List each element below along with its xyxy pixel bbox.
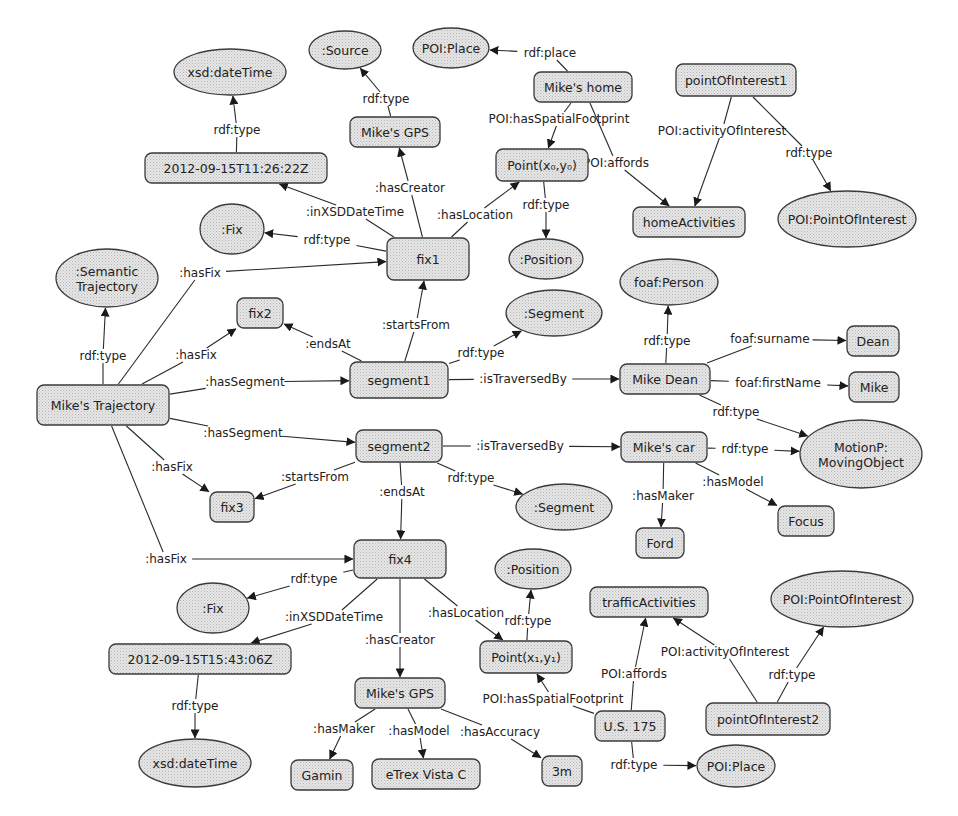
node-motionp[interactable]: MotionP:MovingObject	[800, 420, 922, 488]
node-source[interactable]: :Source	[309, 31, 381, 69]
node-label: POI:Place	[707, 759, 766, 774]
node-label: fix3	[220, 500, 243, 515]
edge-arrow-icon	[103, 308, 105, 349]
edge-mikes_gps1-source: rdf:type	[360, 68, 409, 116]
edge-arrow-icon	[399, 148, 408, 181]
node-mikes_home[interactable]: Mike's home	[534, 72, 632, 102]
node-position2[interactable]: :Position	[495, 549, 571, 589]
node-poi_class1[interactable]: POI:PointOfInterest	[778, 191, 916, 247]
edge-label: POI:affords	[601, 667, 667, 681]
node-label: POI:Place	[422, 41, 481, 56]
node-ford[interactable]: Ford	[636, 528, 684, 558]
edge-label: rdf:type	[722, 442, 769, 456]
edge-line-start	[405, 332, 414, 361]
node-point0[interactable]: Point(x₀,y₀)	[496, 149, 588, 181]
edge-line-start	[334, 462, 355, 470]
node-label: :SemanticTrajectory	[75, 263, 138, 293]
edge-line-start	[707, 346, 752, 363]
node-traffic[interactable]: trafficActivities	[590, 587, 708, 617]
node-poiplace2[interactable]: POI:Place	[697, 745, 775, 787]
edge-arrow-icon	[511, 739, 541, 758]
node-etrex[interactable]: eTrex Vista C	[372, 759, 480, 789]
edge-line-start	[437, 463, 455, 471]
node-focus[interactable]: Focus	[778, 506, 834, 536]
rdf-graph-canvas: rdf:typerdf:typerdf:placePOI:hasSpatialF…	[0, 0, 958, 816]
edge-label: :hasModel	[702, 475, 763, 489]
edge-line-start	[126, 426, 164, 460]
node-us175[interactable]: U.S. 175	[595, 711, 665, 741]
node-label: Ford	[646, 536, 673, 551]
edge-mikes_home-poiplace1: rdf:place	[490, 46, 576, 71]
edge-mikes_traj-fix3: :hasFix	[126, 426, 209, 492]
edge-label: rdf:type	[644, 334, 691, 348]
node-xsd_dt2[interactable]: xsd:dateTime	[139, 739, 251, 787]
node-mikes_car[interactable]: Mike's car	[621, 432, 707, 462]
edge-arrow-icon	[282, 436, 355, 442]
node-dt2[interactable]: 2012-09-15T15:43:06Z	[109, 644, 291, 674]
edge-segment1-fix2: :endsAt	[284, 324, 362, 361]
edge-label: :hasSegment	[205, 375, 285, 389]
node-label: :Position	[520, 252, 573, 267]
edge-arrow-icon	[279, 184, 336, 205]
node-label: segment2	[368, 439, 431, 454]
node-poi1[interactable]: pointOfInterest1	[676, 64, 796, 96]
node-label: fix1	[416, 252, 439, 267]
node-gamin[interactable]: Gamin	[291, 760, 353, 790]
edge-line-start	[424, 579, 457, 606]
node-fix_class2[interactable]: :Fix	[177, 583, 249, 633]
node-mike[interactable]: Mike	[849, 372, 899, 402]
node-foaf_person[interactable]: foaf:Person	[620, 259, 718, 305]
edge-label: :hasFix	[175, 348, 217, 362]
node-poiplace1[interactable]: POI:Place	[413, 28, 489, 68]
edge-arrow-icon	[360, 68, 380, 92]
edge-label: :hasFix	[151, 460, 193, 474]
node-position1[interactable]: :Position	[509, 239, 583, 279]
node-segment1[interactable]: segment1	[350, 362, 448, 398]
node-dean[interactable]: Dean	[847, 326, 899, 356]
node-fix2[interactable]: fix2	[237, 298, 283, 328]
node-fix_class1[interactable]: :Fix	[200, 204, 264, 254]
node-three_m[interactable]: 3m	[542, 756, 582, 786]
node-label: eTrex Vista C	[386, 767, 467, 782]
node-label: Mike's GPS	[366, 686, 434, 701]
node-label: xsd:dateTime	[188, 65, 273, 80]
edge-fix1-mikes_gps1: :hasCreator	[375, 148, 445, 237]
edge-mikes_gps2-etrex: :hasModel	[388, 709, 449, 758]
node-segment_class2[interactable]: :Segment	[516, 484, 612, 530]
node-point1[interactable]: Point(x₁,y₁)	[480, 641, 572, 673]
edge-fix4-point1: :hasLocation	[424, 579, 504, 640]
node-dt1[interactable]: 2012-09-15T11:26:22Z	[145, 153, 327, 183]
node-mike_dean[interactable]: Mike Dean	[620, 364, 710, 394]
edge-label: POI:activityOfInterest	[661, 645, 790, 659]
node-mikes_gps2[interactable]: Mike's GPS	[355, 678, 445, 708]
edge-label: rdf:type	[786, 146, 833, 160]
node-label: Focus	[788, 514, 824, 529]
node-segment_class1[interactable]: :Segment	[506, 290, 602, 336]
node-poi_class2[interactable]: POI:PointOfInterest	[771, 571, 913, 627]
node-xsd_dt1[interactable]: xsd:dateTime	[174, 49, 286, 95]
edge-mikes_gps2-gamin: :hasMaker	[313, 709, 375, 759]
edge-line-start	[170, 418, 208, 426]
node-mikes_gps1[interactable]: Mike's GPS	[350, 117, 440, 147]
node-segment2[interactable]: segment2	[356, 430, 442, 462]
node-label: U.S. 175	[604, 719, 657, 734]
node-poi2[interactable]: pointOfInterest2	[706, 703, 830, 735]
edge-label: foaf:firstName	[735, 376, 821, 390]
node-label: Mike's Trajectory	[51, 398, 156, 413]
node-homeact[interactable]: homeActivities	[633, 207, 745, 237]
edge-line-start	[573, 706, 594, 713]
node-label: :Fix	[202, 601, 223, 616]
node-mikes_traj[interactable]: Mike's Trajectory	[37, 385, 169, 425]
edge-label: :inXSDDateTime	[285, 610, 383, 624]
node-fix3[interactable]: fix3	[210, 492, 254, 522]
edge-line-start	[196, 675, 199, 699]
edge-label: rdf:type	[611, 758, 658, 772]
edge-poi1-poi_class1: rdf:type	[753, 97, 833, 191]
node-label: :Source	[321, 43, 368, 58]
edge-label: rdf:type	[769, 668, 816, 682]
edge-arrow-icon	[494, 331, 522, 346]
edge-fix1-fix_class1: rdf:type	[265, 233, 386, 251]
node-fix4[interactable]: fix4	[354, 540, 446, 578]
node-fix1[interactable]: fix1	[387, 238, 469, 280]
node-sem_traj[interactable]: :SemanticTrajectory	[56, 249, 158, 307]
